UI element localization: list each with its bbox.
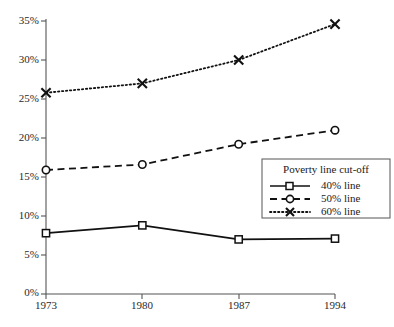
y-tick-label-35: 35% — [19, 14, 39, 26]
data-point — [139, 222, 146, 229]
x-tick-label-1980: 1980 — [131, 299, 154, 311]
legend-marker-square — [286, 183, 293, 190]
legend-label-40: 40% line — [321, 179, 361, 191]
y-axis: 35% 30% 25% 20% 15% 10% 5% 0% — [19, 14, 46, 298]
line-chart: 35% 30% 25% 20% 15% 10% 5% 0% 1973 1980 … — [0, 0, 394, 327]
data-point — [42, 230, 49, 237]
legend: Poverty line cut-off 40% line 50% line 6… — [262, 159, 390, 218]
data-point — [235, 236, 242, 243]
series-path — [46, 225, 335, 239]
data-point — [330, 20, 339, 29]
y-tick-label-10: 10% — [19, 209, 39, 221]
y-tick-label-20: 20% — [19, 131, 39, 143]
y-tick-label-15: 15% — [19, 170, 39, 182]
series-60-line — [41, 20, 339, 98]
legend-label-50: 50% line — [321, 192, 361, 204]
y-tick-label-25: 25% — [19, 92, 39, 104]
data-point — [235, 141, 242, 148]
data-point — [331, 127, 338, 134]
x-axis: 1973 1980 1987 1994 — [35, 294, 347, 311]
legend-marker-circle — [286, 195, 293, 202]
legend-title: Poverty line cut-off — [283, 163, 369, 175]
x-tick-label-1994: 1994 — [324, 299, 347, 311]
data-point — [139, 161, 146, 168]
series-40-line — [42, 222, 338, 243]
y-tick-label-30: 30% — [19, 53, 39, 65]
x-tick-label-1973: 1973 — [35, 299, 58, 311]
data-point — [331, 235, 338, 242]
data-point — [42, 166, 49, 173]
legend-label-60: 60% line — [321, 205, 361, 217]
series-path — [46, 24, 335, 93]
x-tick-label-1987: 1987 — [228, 299, 251, 311]
chart-container: 35% 30% 25% 20% 15% 10% 5% 0% 1973 1980 … — [0, 0, 394, 327]
y-tick-label-0: 0% — [24, 286, 39, 298]
y-tick-label-5: 5% — [24, 248, 39, 260]
